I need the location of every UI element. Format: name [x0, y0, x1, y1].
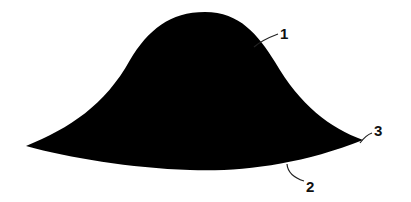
- label-1: 1: [280, 25, 288, 42]
- label-3: 3: [374, 122, 382, 139]
- leader-line-3: [360, 133, 372, 143]
- leader-line-2: [287, 164, 304, 181]
- label-2: 2: [306, 178, 314, 195]
- diagram: 1 3 2: [0, 0, 411, 202]
- bell-shape: [26, 12, 363, 170]
